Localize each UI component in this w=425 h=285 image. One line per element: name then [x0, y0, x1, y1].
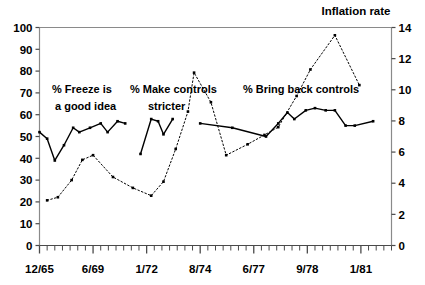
right-axis-tick-label: 0 — [399, 240, 405, 252]
left-axis-tick-label: 100 — [13, 22, 32, 34]
data-point-inflation-rate — [277, 126, 280, 129]
data-point-survey-percent — [157, 120, 160, 123]
data-point-survey-percent — [124, 122, 127, 125]
x-axis-tick-label: 9/78 — [296, 263, 319, 275]
data-point-survey-percent — [334, 109, 337, 112]
chart-title: Inflation rate — [321, 5, 390, 17]
left-axis-tick-label: 50 — [20, 131, 33, 143]
annotation-stricter-line2: stricter — [148, 100, 186, 112]
data-point-survey-percent — [344, 124, 347, 127]
data-point-inflation-rate — [57, 196, 60, 199]
x-axis-tick-label: 6/77 — [243, 263, 265, 275]
x-axis-tick-label: 12/65 — [25, 263, 54, 275]
data-point-survey-percent — [78, 131, 81, 134]
x-axis-tick-label: 1/72 — [135, 263, 157, 275]
data-point-inflation-rate — [46, 199, 49, 202]
x-axis-tick-label: 6/69 — [82, 263, 104, 275]
data-point-inflation-rate — [81, 159, 84, 162]
annotation-stricter-line1: % Make controls — [130, 83, 217, 95]
data-point-survey-percent — [89, 126, 92, 129]
left-axis-tick-label: 0 — [26, 240, 32, 252]
x-axis-tick-label: 1/81 — [350, 263, 373, 275]
right-axis-tick-label: 12 — [399, 53, 412, 65]
data-point-inflation-rate — [263, 134, 266, 137]
left-axis-tick-label: 80 — [20, 65, 33, 77]
data-point-survey-percent — [72, 126, 75, 129]
data-point-inflation-rate — [309, 68, 312, 71]
data-point-survey-percent — [305, 109, 308, 112]
annotation-bringback-line1: % Bring back controls — [243, 83, 359, 95]
annotation-freeze-line2: a good idea — [55, 100, 117, 112]
data-point-inflation-rate — [70, 179, 73, 182]
left-axis-tick-label: 20 — [20, 196, 33, 208]
data-point-survey-percent — [372, 120, 375, 123]
data-point-survey-percent — [38, 131, 41, 134]
left-axis-tick-label: 10 — [20, 218, 33, 230]
data-point-survey-percent — [314, 107, 317, 110]
data-point-inflation-rate — [210, 101, 213, 104]
data-point-inflation-rate — [112, 176, 115, 179]
data-point-inflation-rate — [150, 194, 153, 197]
data-point-inflation-rate — [225, 154, 228, 157]
x-axis-tick-label: 8/74 — [189, 263, 212, 275]
right-axis-tick-label: 8 — [399, 115, 406, 127]
data-point-inflation-rate — [187, 110, 190, 113]
left-axis-tick-label: 60 — [20, 109, 33, 121]
right-axis-tick-label: 2 — [399, 209, 405, 221]
data-point-survey-percent — [324, 109, 327, 112]
data-point-inflation-rate — [162, 180, 165, 183]
data-point-survey-percent — [99, 122, 102, 125]
data-point-inflation-rate — [174, 148, 177, 151]
data-point-survey-percent — [106, 131, 109, 134]
data-point-survey-percent — [150, 118, 153, 121]
data-point-survey-percent — [139, 153, 142, 156]
series-line-inflation-rate — [47, 35, 359, 200]
data-point-survey-percent — [162, 133, 165, 136]
data-point-inflation-rate — [193, 71, 196, 74]
data-point-survey-percent — [199, 122, 202, 125]
inflation-rate-chart: 01020304050607080901000246810121412/656/… — [0, 0, 425, 285]
chart-container: 01020304050607080901000246810121412/656/… — [0, 0, 425, 285]
right-axis-tick-label: 10 — [399, 84, 412, 96]
left-axis-tick-label: 40 — [20, 153, 33, 165]
series-line-survey-percent — [40, 121, 126, 160]
data-point-survey-percent — [46, 137, 49, 140]
data-point-inflation-rate — [295, 95, 298, 98]
data-point-survey-percent — [63, 144, 66, 147]
data-point-survey-percent — [171, 118, 174, 121]
series-line-survey-percent — [141, 119, 173, 154]
data-point-inflation-rate — [334, 34, 337, 37]
left-axis-tick-label: 70 — [20, 87, 33, 99]
right-axis-tick-label: 14 — [399, 22, 412, 34]
data-point-inflation-rate — [246, 143, 249, 146]
right-axis-tick-label: 4 — [399, 177, 406, 189]
left-axis-tick-label: 30 — [20, 174, 33, 186]
data-point-inflation-rate — [92, 154, 95, 157]
data-point-survey-percent — [277, 122, 280, 125]
annotation-freeze-line1: % Freeze is — [52, 83, 112, 95]
data-point-survey-percent — [353, 124, 356, 127]
data-point-inflation-rate — [132, 187, 135, 190]
data-point-survey-percent — [54, 159, 57, 162]
right-axis-tick-label: 6 — [399, 146, 405, 158]
data-point-survey-percent — [231, 126, 234, 129]
left-axis-tick-label: 90 — [20, 44, 33, 56]
data-point-survey-percent — [116, 120, 119, 123]
data-point-survey-percent — [293, 118, 296, 121]
